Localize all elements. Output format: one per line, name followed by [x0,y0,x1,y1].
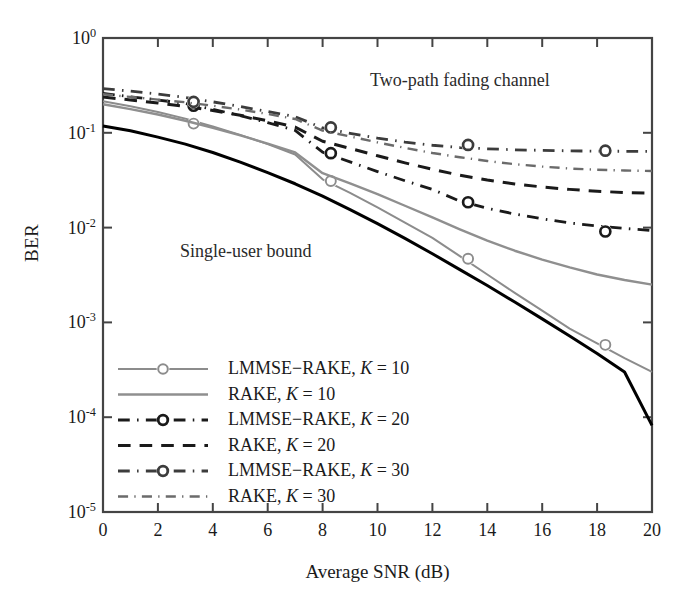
annotation-single-user-bound: Single-user bound [180,241,311,262]
y-tick-label: 10-2 [68,217,96,238]
annotation-two-path-fading-channel: Two-path fading channel [370,70,550,91]
legend-item-label: LMMSE−RAKE, K = 10 [228,358,409,379]
chart-canvas [0,0,688,609]
y-tick-label: 100 [72,28,96,49]
x-tick-label: 4 [208,520,217,541]
x-tick-label: 18 [588,520,606,541]
chart-figure: BER Average SNR (dB) 02468101214161820 1… [0,0,688,609]
x-tick-label: 20 [643,520,661,541]
x-tick-label: 16 [533,520,551,541]
y-axis-title: BER [21,223,43,263]
series-line [103,94,652,171]
y-tick-label: 10-5 [68,502,96,523]
y-tick-label: 10-4 [68,407,96,428]
x-tick-label: 0 [99,520,108,541]
legend-item-label: RAKE, K = 10 [228,384,335,405]
x-tick-label: 2 [153,520,162,541]
x-tick-label: 8 [318,520,327,541]
x-axis-title: Average SNR (dB) [103,561,652,583]
x-tick-label: 14 [478,520,496,541]
legend-sample-lines [118,363,208,497]
y-tick-label: 10-3 [68,312,96,333]
x-tick-label: 10 [369,520,387,541]
legend-item-label: RAKE, K = 20 [228,435,335,456]
plot-frame [103,38,652,512]
y-tick-label: 10-1 [68,122,96,143]
series-line [103,93,652,230]
x-tick-label: 12 [423,520,441,541]
legend-item-label: LMMSE−RAKE, K = 20 [228,409,409,430]
legend-item-label: RAKE, K = 30 [228,486,335,507]
axis-ticks [103,38,652,512]
x-tick-label: 6 [263,520,272,541]
legend-item-label: LMMSE−RAKE, K = 30 [228,460,409,481]
